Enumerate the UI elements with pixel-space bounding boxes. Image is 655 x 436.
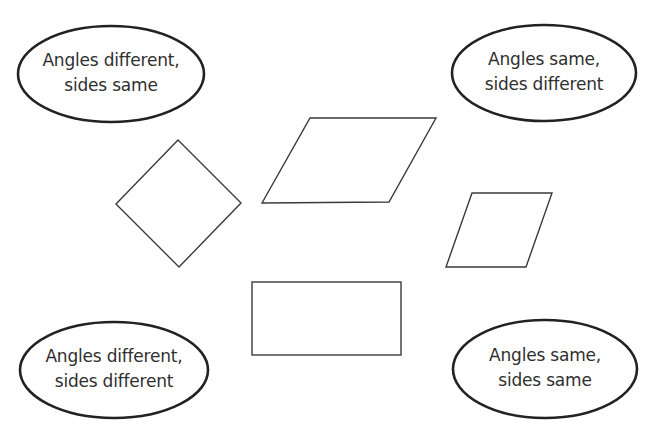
large-rhombus-shape[interactable] — [262, 118, 436, 203]
category-ellipse-angles-same-sides-same — [453, 320, 637, 418]
small-rhombus-shape[interactable] — [446, 193, 552, 267]
category-ellipse-angles-same-sides-different — [452, 25, 636, 121]
square-diamond-shape[interactable] — [116, 140, 241, 267]
category-ellipse-angles-different-sides-different — [20, 322, 208, 418]
rectangle-shape[interactable] — [252, 282, 401, 355]
category-ellipse-angles-different-sides-same — [18, 26, 204, 122]
diagram-canvas — [0, 0, 655, 436]
